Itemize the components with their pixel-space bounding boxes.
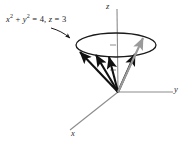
x-axis — [70, 92, 118, 130]
equation-label: x2 + y2 = 4, z = 3 — [6, 14, 66, 24]
vectors-group — [80, 38, 143, 92]
axes-group — [70, 9, 173, 130]
z-axis — [117, 9, 118, 92]
leader-group — [51, 28, 70, 38]
equation-plus: + — [13, 14, 23, 24]
equation-equals-three: = 3 — [52, 14, 66, 24]
leader-arrow-icon — [51, 28, 70, 38]
vector-v5-highlight — [118, 38, 143, 92]
figure-container: x2 + y2 = 4, z = 3 z y x — [0, 0, 189, 144]
equation-equals-four: = 4, — [30, 14, 49, 24]
axis-label-x: x — [71, 128, 75, 138]
axis-label-y: y — [174, 84, 178, 94]
axis-label-z: z — [106, 1, 109, 11]
